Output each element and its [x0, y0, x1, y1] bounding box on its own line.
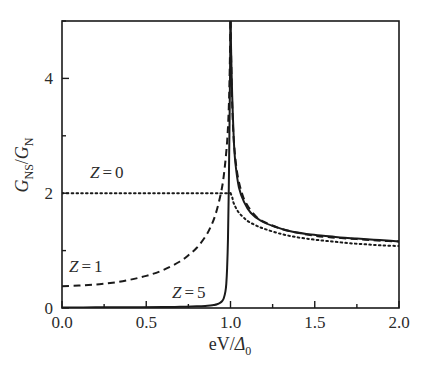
- x-tick-label: 0.5: [136, 313, 157, 332]
- x-tick-label: 1.5: [304, 313, 325, 332]
- curve-label-z0: Z=0: [90, 163, 124, 182]
- y-tick-label: 4: [45, 69, 54, 88]
- figure-conductance-plot: 0.00.51.01.52.0 024 eV/Δ0 GNS/GN Z=0 Z=1: [0, 0, 431, 377]
- z1-eq: =: [81, 257, 91, 276]
- svg-text:Z=1: Z=1: [69, 257, 103, 276]
- curve-label-z5: Z=5: [172, 283, 206, 302]
- x-axis-title-sub: 0: [245, 344, 251, 358]
- z1-val: 1: [94, 257, 103, 276]
- z0-val: 0: [115, 163, 124, 182]
- z5-val: 5: [197, 283, 206, 302]
- x-axis-title-delta: Δ: [234, 334, 246, 354]
- y-axis-title-g2: G: [12, 146, 32, 159]
- x-tick-label: 2.0: [388, 313, 409, 332]
- y-axis-title-sub2: N: [22, 137, 36, 146]
- z0-var: Z: [90, 163, 100, 182]
- x-axis-title-ev: eV/: [209, 334, 235, 354]
- curve-label-z1: Z=1: [69, 257, 103, 276]
- y-axis-title-sub1: NS: [22, 164, 36, 179]
- svg-text:Z=5: Z=5: [172, 283, 206, 302]
- svg-text:Z=0: Z=0: [90, 163, 124, 182]
- y-tick-label: 2: [45, 184, 54, 203]
- x-tick-label: 0.0: [51, 313, 72, 332]
- y-tick-label: 0: [45, 299, 54, 318]
- plot-canvas: 0.00.51.01.52.0 024 eV/Δ0 GNS/GN Z=0 Z=1: [0, 0, 431, 377]
- y-axis-title-g1: G: [12, 180, 32, 193]
- z0-eq: =: [102, 163, 112, 182]
- z5-eq: =: [184, 283, 194, 302]
- x-tick-label: 1.0: [220, 313, 241, 332]
- z5-var: Z: [172, 283, 182, 302]
- z1-var: Z: [69, 257, 79, 276]
